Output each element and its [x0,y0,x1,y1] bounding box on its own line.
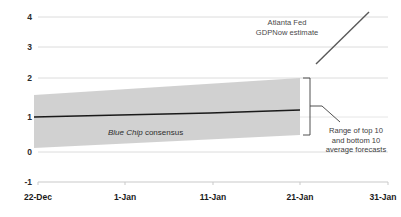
x-tick-21-jan: 21-Jan [270,192,330,202]
blue-chip-label-italic: Blue Chip [108,128,143,137]
range-annotation-line3: average forecasts [318,145,394,155]
y-tick-1: 1 [14,112,32,122]
range-annotation: Range of top 10 and bottom 10 average fo… [318,126,394,155]
x-tick-11-jan: 11-Jan [183,192,243,202]
y-tick-0: 0 [14,147,32,157]
range-bracket [303,78,310,135]
y-tick-4: 4 [14,12,32,22]
range-leader-line [310,106,340,122]
y-tick-2: 2 [14,73,32,83]
x-tick-31-jan: 31-Jan [353,192,401,202]
blue-chip-consensus-label: Blue Chip consensus [108,128,183,137]
blue-chip-label-plain: consensus [143,128,183,137]
gdpnow-annotation: Atlanta Fed GDPNow estimate [232,18,342,37]
x-tick-22-dec: 22-Dec [8,192,68,202]
range-annotation-line2: and bottom 10 [318,136,394,146]
x-tick-1-jan: 1-Jan [95,192,155,202]
gdpnow-annotation-line2: GDPNow estimate [232,28,342,38]
gdpnow-annotation-line1: Atlanta Fed [232,18,342,28]
forecast-range-band [34,78,300,148]
y-tick-neg1: -1 [14,177,32,187]
y-tick-3: 3 [14,42,32,52]
range-annotation-line1: Range of top 10 [318,126,394,136]
